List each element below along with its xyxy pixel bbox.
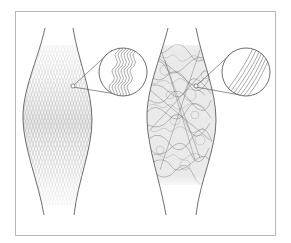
left-sample-point — [71, 84, 75, 88]
diagram-canvas — [0, 0, 291, 243]
left-tissue-section — [20, 28, 100, 218]
left-magnifier-inset — [71, 34, 147, 98]
right-sample-point — [194, 84, 198, 88]
right-tissue-section — [140, 28, 225, 218]
